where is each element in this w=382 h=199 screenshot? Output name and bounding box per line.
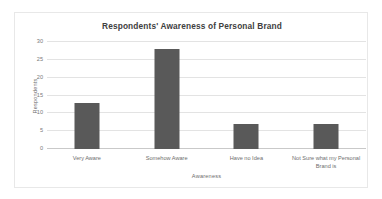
bar-group: Have no Idea	[207, 42, 287, 149]
y-tick-label: 5	[40, 127, 43, 133]
plot-area: 051015202530Very AwareSomehow AwareHave …	[47, 42, 366, 149]
x-axis-title: Awareness	[47, 173, 366, 179]
bar-group: Somehow Aware	[127, 42, 207, 149]
bar	[74, 103, 99, 149]
bar-group: Not Sure what my Personal Brand is	[286, 42, 366, 149]
y-tick-label: 15	[37, 92, 43, 98]
x-tick-label: Have no Idea	[204, 154, 288, 162]
y-tick-label: 10	[37, 109, 43, 115]
x-tick-label: Very Aware	[45, 154, 129, 162]
x-tick-label: Not Sure what my Personal Brand is	[284, 154, 368, 171]
chart-container: Respondents' Awareness of Personal Brand…	[14, 12, 368, 188]
bar-group: Very Aware	[47, 42, 127, 149]
bar	[234, 124, 259, 149]
y-tick-label: 25	[37, 56, 43, 62]
chart-title: Respondents' Awareness of Personal Brand	[15, 21, 369, 31]
bar	[154, 49, 179, 149]
y-tick-label: 0	[40, 145, 43, 151]
x-tick-label: Somehow Aware	[125, 154, 209, 162]
y-tick-label: 20	[37, 74, 43, 80]
y-tick-label: 30	[37, 38, 43, 44]
bar	[314, 124, 339, 149]
